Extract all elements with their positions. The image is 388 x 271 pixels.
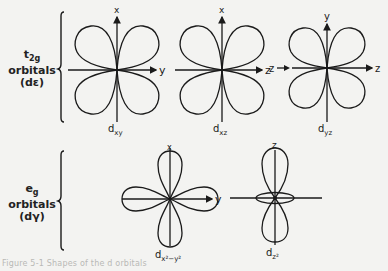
orbital-dx2-y2 — [122, 148, 218, 247]
figure-caption: Figure 5-1 Shapes of the d orbitals — [2, 259, 147, 268]
dyz-y-axis-label: y — [324, 11, 330, 22]
orbital-dz2 — [230, 148, 322, 245]
dyz-z-axis-left-label: z — [269, 63, 274, 74]
dyz-left-arrowhead-icon — [284, 65, 290, 71]
orbital-dxz — [175, 17, 264, 122]
dxy-x-axis-label: x — [114, 5, 120, 15]
dx2-y2-label: dx²−y² — [155, 249, 181, 263]
dx2-y2-y-axis-label: y — [215, 193, 222, 206]
eg-bracket — [58, 151, 64, 250]
dyz-label: dyz — [318, 123, 333, 137]
dxz-x-axis-label: x — [219, 5, 225, 15]
orbital-dxy — [68, 17, 159, 122]
dx2-y2-x-axis-label: x — [167, 143, 172, 152]
orbital-dyz — [277, 24, 372, 122]
t2g-bracket — [58, 12, 64, 122]
dxy-label: dxy — [108, 123, 123, 137]
orbital-figure: x y dxy x z dxz y z z dyz — [0, 0, 388, 271]
dxz-label: dxz — [213, 123, 228, 137]
dz2-label: dz² — [266, 247, 279, 261]
dyz-z-axis-right-label: z — [375, 63, 380, 74]
dxy-y-axis-label: y — [159, 64, 166, 77]
dz2-z-axis-label: z — [272, 140, 277, 150]
